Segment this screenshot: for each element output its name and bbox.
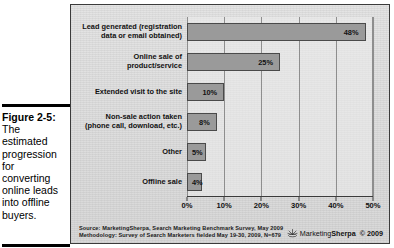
source-line: Source: MarketingSherpa, Search Marketin… — [79, 225, 283, 232]
bar-value-label: 5% — [192, 147, 203, 156]
category-label: Offline sale — [70, 178, 182, 187]
bar-chart: Lead generated (registrationdata or emai… — [70, 4, 390, 244]
category-label-line: data or email obtained) — [70, 32, 182, 41]
category-label-line: Non-sale action taken — [106, 112, 182, 121]
category-label: Lead generated (registrationdata or emai… — [70, 23, 182, 40]
marketingsherpa-logo: MarketingSherpa © 2009 — [287, 228, 383, 239]
caption-line: progression — [2, 148, 74, 160]
x-axis-tick-label: 20% — [254, 201, 269, 210]
category-label-line: Lead generated (registration — [82, 22, 182, 31]
category-label-line: Online sale of — [134, 52, 182, 61]
x-axis-ticks: 0%10%20%30%40%50% — [187, 201, 373, 213]
gridline — [187, 17, 188, 197]
bar-value-label: 8% — [199, 117, 210, 126]
figure-caption: Figure 2-5: The estimated progression fo… — [0, 104, 74, 221]
category-label: Other — [70, 148, 182, 157]
source-note: Source: MarketingSherpa, Search Marketin… — [79, 225, 283, 239]
logo-word-bold: Sherpa — [331, 229, 355, 238]
caption-line: buyers. — [2, 209, 74, 221]
caption-rule-top — [2, 104, 70, 107]
category-label: Non-sale action taken(phone call, downlo… — [70, 113, 182, 130]
x-axis-tick-label: 0% — [182, 201, 193, 210]
x-axis-tick-label: 30% — [291, 201, 306, 210]
x-axis-tick-label: 10% — [217, 201, 232, 210]
category-label-line: (phone call, download, etc.) — [70, 122, 182, 131]
gridline — [261, 17, 262, 197]
caption-line: online leads — [2, 184, 74, 196]
caption-line: for — [2, 160, 74, 172]
category-label: Extended visit to the site — [70, 88, 182, 97]
sunburst-icon — [287, 228, 298, 239]
plot-background — [187, 17, 373, 197]
bar: 48% — [187, 23, 366, 42]
caption-line: converting — [2, 172, 74, 184]
chart-footer: Source: MarketingSherpa, Search Marketin… — [79, 225, 383, 239]
category-label-line: Offline sale — [142, 177, 182, 186]
category-label-line: Extended visit to the site — [95, 87, 182, 96]
bar: 4% — [187, 173, 202, 192]
x-axis-tick-label: 50% — [365, 201, 380, 210]
caption-line: The — [2, 123, 74, 135]
bar-row: Extended visit to the site10% — [187, 83, 373, 102]
bar-row: Offline sale4% — [187, 173, 373, 192]
figure-page: Figure 2-5: The estimated progression fo… — [0, 0, 394, 248]
bar: 10% — [187, 83, 224, 102]
plot-area: Lead generated (registrationdata or emai… — [187, 17, 373, 197]
gridline — [336, 17, 337, 197]
category-label: Online sale ofproduct/service — [70, 53, 182, 70]
copyright-text: © 2009 — [360, 229, 383, 238]
bar-row: Other5% — [187, 143, 373, 162]
category-label-line: product/service — [70, 62, 182, 71]
caption-rule-bottom — [2, 244, 70, 247]
methodology-line: Methodology: Survey of Search Marketers … — [79, 232, 283, 239]
bar-row: Non-sale action taken(phone call, downlo… — [187, 113, 373, 132]
figure-number: Figure 2-5: — [2, 111, 74, 123]
caption-line: into offline — [2, 196, 74, 208]
bar: 5% — [187, 143, 206, 162]
bar: 8% — [187, 113, 217, 132]
bar-row: Lead generated (registrationdata or emai… — [187, 23, 373, 42]
caption-line: estimated — [2, 135, 74, 147]
x-axis-tick-label: 40% — [328, 201, 343, 210]
bar-value-label: 4% — [192, 177, 203, 186]
gridline — [299, 17, 300, 197]
logo-wordmark: MarketingSherpa — [300, 229, 356, 238]
logo-word-light: Marketing — [300, 229, 332, 238]
bar-value-label: 25% — [258, 57, 273, 66]
bar-value-label: 10% — [202, 87, 217, 96]
gridline — [224, 17, 225, 197]
gridline — [373, 17, 374, 197]
bar: 25% — [187, 53, 280, 72]
plot-right-edge — [372, 17, 373, 197]
bar-row: Online sale ofproduct/service25% — [187, 53, 373, 72]
caption-text: Figure 2-5: The estimated progression fo… — [0, 111, 74, 221]
bar-value-label: 48% — [344, 27, 359, 36]
category-label-line: Other — [162, 147, 182, 156]
x-axis-line — [187, 196, 373, 197]
